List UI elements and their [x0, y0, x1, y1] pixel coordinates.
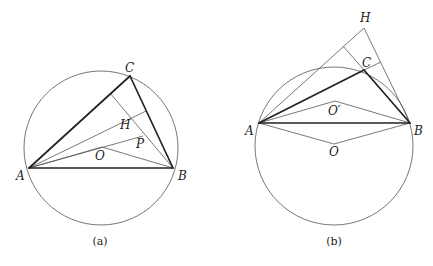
point-label: B: [413, 124, 423, 138]
point-label: A: [244, 124, 254, 138]
point-label: C: [362, 56, 371, 70]
point-label: O′: [328, 104, 341, 118]
point-label: O: [95, 149, 105, 163]
point-label: H: [359, 11, 371, 25]
point-label: A: [15, 169, 25, 183]
point-label: C: [125, 61, 134, 75]
point-label: P: [135, 137, 145, 151]
geometry-figure: ABCHPO(a) ABCHO′O(b): [0, 0, 433, 266]
panel-caption: (a): [92, 235, 107, 248]
point-label: O: [329, 145, 339, 159]
point-label: B: [177, 169, 187, 183]
background: [0, 0, 433, 266]
panel-caption: (b): [326, 235, 342, 248]
point-label: H: [119, 118, 131, 132]
